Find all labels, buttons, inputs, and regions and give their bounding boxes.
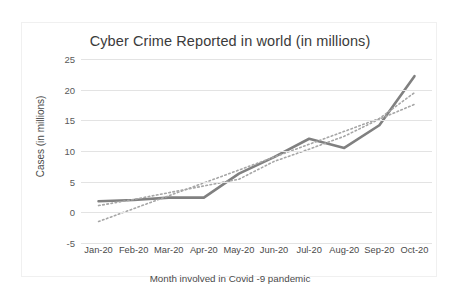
x-axis-tick-9: Oct-20 bbox=[400, 245, 428, 255]
x-axis-tick-5: Jun-20 bbox=[260, 245, 288, 255]
x-axis-tick-7: Aug-20 bbox=[329, 245, 359, 255]
x-axis-tick-1: Feb-20 bbox=[119, 245, 148, 255]
x-axis-tick-labels: Jan-20Feb-20Mar-20Apr-20May-20Jun-20Jul-… bbox=[81, 245, 432, 259]
gridline: 10 bbox=[81, 151, 432, 152]
gridline: 0 bbox=[81, 212, 432, 213]
gridline: 5 bbox=[81, 182, 432, 183]
x-axis-title: Month involved in Covid -9 pandemic bbox=[22, 273, 438, 284]
y-axis-tick-5: 0 bbox=[70, 207, 75, 218]
series-line-1 bbox=[99, 93, 415, 222]
y-axis-tick-4: 5 bbox=[70, 176, 75, 187]
x-axis-tick-2: Mar-20 bbox=[154, 245, 183, 255]
x-axis-tick-4: May-20 bbox=[223, 245, 254, 255]
gridline: 25 bbox=[81, 59, 432, 60]
y-axis-title: Cases (in millions) bbox=[34, 59, 48, 213]
x-axis-tick-0: Jan-20 bbox=[84, 245, 112, 255]
x-axis-tick-3: Apr-20 bbox=[190, 245, 218, 255]
y-axis-tick-0: 25 bbox=[64, 54, 75, 65]
plot-area: 2520151050-5 bbox=[81, 59, 432, 243]
gridline: -5 bbox=[81, 243, 432, 244]
y-axis-title-label: Cases (in millions) bbox=[36, 95, 47, 177]
x-axis-tick-8: Sep-20 bbox=[364, 245, 394, 255]
x-axis-tick-6: Jul-20 bbox=[296, 245, 321, 255]
chart-card: Cyber Crime Reported in world (in millio… bbox=[21, 22, 437, 277]
y-axis-tick-2: 15 bbox=[64, 115, 75, 126]
gridline: 20 bbox=[81, 90, 432, 91]
y-axis-tick-1: 20 bbox=[64, 84, 75, 95]
y-axis-tick-3: 10 bbox=[64, 146, 75, 157]
chart-title: Cyber Crime Reported in world (in millio… bbox=[22, 33, 438, 49]
gridline: 15 bbox=[81, 120, 432, 121]
y-axis-tick-6: -5 bbox=[67, 238, 75, 249]
